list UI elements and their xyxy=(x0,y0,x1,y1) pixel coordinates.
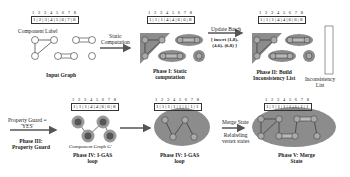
relabeling-label: Relabeling vertex states xyxy=(222,132,249,145)
index-row-phase4a: 1 2 3 4 5 6 7 8 xyxy=(72,97,117,102)
array-phase4b: 1|1|1|1|1|1|1|1 xyxy=(154,103,202,111)
inconsistency-list xyxy=(325,26,333,74)
component-graph xyxy=(72,116,117,143)
phase5-title: Phase V: Merge State xyxy=(278,152,315,165)
component-label: Component Label xyxy=(18,28,58,34)
index-row-phase5: 1 2 3 4 5 6 7 8 xyxy=(265,97,310,102)
input-graph xyxy=(32,37,96,60)
phase4b-title: Phase IV: I-GAS loop xyxy=(160,152,199,165)
diagram-canvas xyxy=(0,0,350,177)
update-batch-label: Update Batch xyxy=(211,26,241,32)
phase1-graph xyxy=(140,33,205,64)
igas-loop-graph xyxy=(154,108,210,146)
array-phase2: 1|1|1|4|4|6|6|8 xyxy=(258,16,306,24)
component-graph-label: Component Graph G' xyxy=(69,144,112,150)
merge-state-label: Merge State xyxy=(222,119,249,125)
index-row-phase1: 1 2 3 4 5 6 7 8 xyxy=(148,10,193,15)
phase5-graph xyxy=(252,107,336,147)
update-batch-items: [ insert (1,8), (4,6), (6,8) ] xyxy=(211,37,238,49)
index-row-phase4b: 1 2 3 4 5 6 7 8 xyxy=(155,97,200,102)
array-input: 1|2|3|4|5|6|7|8 xyxy=(31,16,79,24)
static-computation-label: Static Computation xyxy=(101,33,130,46)
array-phase1: 1|1|1|4|4|6|6|8 xyxy=(147,16,195,24)
input-graph-title: Input Graph xyxy=(46,72,76,78)
index-row-input: 1 2 3 4 5 6 7 8 xyxy=(32,10,77,15)
phase1-title: Phase I: Static computation xyxy=(153,68,187,81)
phase4a-title: Phase IV: I-GAS loop xyxy=(73,152,112,165)
array-phase5: 1|1|1|1|1|1|1|1 xyxy=(264,103,312,111)
array-phase4a: 1|1|1|4|4|6|6|8 xyxy=(71,103,119,111)
inconsistency-list-label: Inconsistency List xyxy=(305,76,335,89)
phase2-graph xyxy=(252,33,315,64)
phase2-title: Phase II: Build Inconsistency List xyxy=(253,69,295,82)
index-row-phase2: 1 2 3 4 5 6 7 8 xyxy=(259,10,304,15)
phase3-title: Phase III: Property Guard xyxy=(12,138,50,151)
property-guard-label: Property Guard = 'YES' xyxy=(8,117,47,130)
